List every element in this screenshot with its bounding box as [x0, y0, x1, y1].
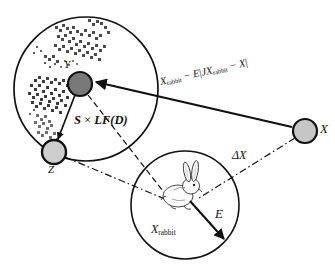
edge-x-to-rabbit — [199, 138, 295, 198]
rabbit-icon — [161, 160, 202, 209]
levy-s: S — [74, 113, 81, 127]
label-node-z: Z — [48, 163, 54, 175]
diagram-canvas: Y Z X E ΔX S × LF(D) Xrabbit Xrabbit − E… — [0, 0, 335, 265]
label-node-x: X — [320, 121, 328, 137]
node-X[interactable] — [293, 119, 317, 143]
label-escape-energy: E — [215, 206, 223, 222]
edge-y-to-rabbit — [88, 95, 170, 200]
xr-sub: rabbit — [158, 228, 175, 237]
levy-times: × — [81, 113, 94, 127]
label-levy-flight-term: S × LF(D) — [74, 113, 128, 128]
edge-z-to-rabbit — [65, 157, 172, 202]
node-Y[interactable] — [68, 72, 92, 96]
label-delta-x: ΔX — [232, 148, 246, 163]
levy-lf: LF(D) — [94, 113, 127, 127]
label-node-y: Y — [64, 58, 70, 70]
node-Z[interactable] — [42, 140, 66, 164]
label-rabbit-position: Xrabbit — [151, 222, 176, 237]
